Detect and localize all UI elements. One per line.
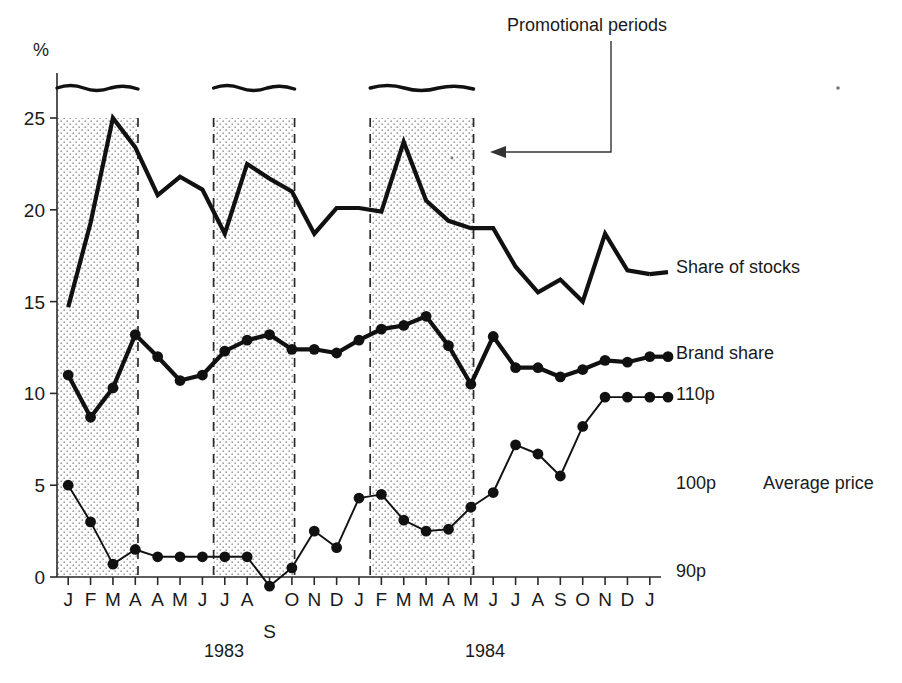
promotional-period-wave	[57, 86, 138, 91]
y-axis-tick-label: 25	[24, 108, 45, 129]
x-tick-label-september-dip: S	[263, 621, 276, 642]
data-point-marker	[286, 562, 297, 573]
x-axis-tick-label: J	[488, 589, 498, 610]
data-point-marker	[376, 324, 387, 335]
data-point-marker	[510, 439, 521, 450]
data-point-marker	[465, 502, 476, 513]
data-point-marker	[622, 392, 633, 403]
data-point-marker	[309, 526, 320, 537]
y-axis-tick-labels: 0510152025	[24, 108, 45, 588]
y-axis-tick-label: 0	[34, 567, 45, 588]
y-axis-unit-label: %	[33, 40, 49, 60]
x-axis-tick-label: J	[354, 589, 364, 610]
y-axis-tick-label: 15	[24, 292, 45, 313]
data-point-marker	[108, 559, 119, 570]
series-label: 110p	[676, 384, 715, 404]
x-axis-tick-label: A	[241, 589, 254, 610]
series-label-end-marker-brand	[663, 351, 674, 362]
data-point-marker	[152, 551, 163, 562]
data-point-marker	[242, 551, 253, 562]
data-point-marker	[421, 526, 432, 537]
data-point-marker	[219, 551, 230, 562]
data-point-marker	[600, 392, 611, 403]
series-label-leader	[650, 272, 668, 274]
x-axis-tick-label: D	[621, 589, 635, 610]
data-point-marker	[398, 320, 409, 331]
x-axis-tick-label: A	[151, 589, 164, 610]
promotional-periods-label: Promotional periods	[507, 15, 667, 35]
data-point-marker	[622, 357, 633, 368]
data-point-marker	[85, 412, 96, 423]
x-axis-tick-label: N	[307, 589, 321, 610]
x-axis-tick-label: M	[418, 589, 434, 610]
x-axis-tick-label: M	[463, 589, 479, 610]
chart-canvas: 0510152025 JFMAAMJJAONDJFMMAMJJASONDJ % …	[0, 0, 902, 683]
data-point-marker	[331, 542, 342, 553]
data-point-marker	[533, 362, 544, 373]
data-point-marker	[533, 449, 544, 460]
series-label-end-marker	[663, 392, 674, 403]
data-point-marker	[354, 335, 365, 346]
x-axis-tick-label: O	[575, 589, 590, 610]
data-point-marker	[264, 329, 275, 340]
x-axis-tick-label: J	[220, 589, 230, 610]
data-point-marker	[175, 551, 186, 562]
data-point-marker	[197, 551, 208, 562]
promotional-period-wave	[370, 86, 473, 91]
series-share-of-stocks-line	[68, 118, 650, 307]
data-point-marker	[331, 348, 342, 359]
data-point-marker	[465, 379, 476, 390]
series-label: Brand share	[676, 343, 774, 363]
data-point-marker	[108, 382, 119, 393]
data-point-marker	[219, 346, 230, 357]
y-axis-tick-label: 10	[24, 383, 45, 404]
x-axis-tick-label: M	[105, 589, 121, 610]
series-brand-share-markers	[63, 311, 655, 423]
data-point-marker	[488, 487, 499, 498]
data-point-marker	[600, 355, 611, 366]
x-axis-tick-label: F	[376, 589, 388, 610]
annotation-arrowhead	[490, 146, 506, 158]
data-point-marker	[354, 493, 365, 504]
x-axis-tick-label: J	[198, 589, 208, 610]
x-axis-tick-label: J	[511, 589, 521, 610]
y-axis-ticks	[50, 118, 57, 577]
series-right-labels: Share of stocksBrand share110p100pAverag…	[676, 257, 874, 581]
data-point-marker	[242, 335, 253, 346]
x-axis-tick-label: D	[330, 589, 344, 610]
x-axis-tick-labels: JFMAAMJJAONDJFMMAMJJASONDJ	[63, 589, 654, 610]
data-point-marker	[85, 517, 96, 528]
x-axis-tick-label: A	[532, 589, 545, 610]
x-axis-tick-label: J	[645, 589, 655, 610]
data-point-marker	[555, 371, 566, 382]
x-axis-tick-label: A	[129, 589, 142, 610]
data-point-marker	[130, 329, 141, 340]
year-label: 1984	[465, 641, 505, 661]
x-axis-tick-label: M	[396, 589, 412, 610]
x-axis-tick-label: M	[172, 589, 188, 610]
series-label: Share of stocks	[676, 257, 800, 277]
year-labels: 19831984	[204, 641, 505, 661]
scan-speck-2	[451, 157, 454, 160]
series-label: 100p	[676, 473, 716, 493]
data-point-marker	[398, 515, 409, 526]
series-average-price-markers	[63, 392, 655, 592]
data-point-marker	[63, 370, 74, 381]
data-point-marker	[555, 471, 566, 482]
x-axis-tick-label: J	[63, 589, 73, 610]
x-axis-tick-label: O	[284, 589, 299, 610]
x-axis-ticks	[68, 577, 650, 585]
series-label: 90p	[676, 561, 706, 581]
series-brand-share-line	[68, 316, 650, 417]
x-axis-tick-label: S	[554, 589, 567, 610]
data-point-marker	[376, 489, 387, 500]
data-point-marker	[152, 351, 163, 362]
data-point-marker	[197, 370, 208, 381]
data-point-marker	[577, 364, 588, 375]
x-axis-tick-label: N	[598, 589, 612, 610]
data-point-marker	[175, 375, 186, 386]
data-point-marker	[286, 344, 297, 355]
promotional-period-wave-markers	[57, 86, 474, 91]
promotional-periods-annotation: Promotional periods	[490, 15, 667, 158]
x-axis-tick-label: A	[442, 589, 455, 610]
